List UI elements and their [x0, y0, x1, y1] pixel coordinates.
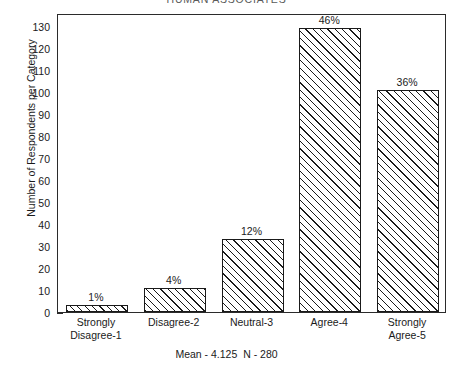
x-axis-tick-label: Neutral-3	[207, 316, 297, 329]
x-axis-tick-label-line: Agree-5	[362, 329, 452, 342]
y-axis-tick-label: 110	[0, 65, 50, 77]
bar-value-label: 12%	[212, 225, 292, 237]
x-axis-tick-label: Disagree-2	[129, 316, 219, 329]
x-axis-tick-label-line: Disagree-2	[129, 316, 219, 329]
y-axis-tick-label: 60	[0, 175, 50, 187]
bar[interactable]	[299, 28, 361, 312]
y-axis-tick-label: 70	[0, 153, 50, 165]
y-axis-tick-mark	[57, 313, 63, 314]
y-axis-tick-label: 130	[0, 21, 50, 33]
y-axis-tick-label: 50	[0, 197, 50, 209]
x-axis-tick-label: Agree-4	[284, 316, 374, 329]
y-axis-tick-label: 40	[0, 219, 50, 231]
y-axis-tick-label: 20	[0, 263, 50, 275]
x-axis-tick-label-line: Agree-4	[284, 316, 374, 329]
chart-caption: Mean - 4.125 N - 280	[0, 348, 453, 360]
plot-area	[57, 14, 446, 313]
bar[interactable]	[144, 288, 206, 312]
x-axis-tick-label-line: Strongly	[51, 316, 141, 329]
bar-value-label: 36%	[367, 76, 447, 88]
x-axis-tick-label-line: Neutral-3	[207, 316, 297, 329]
y-axis-tick-label: 10	[0, 285, 50, 297]
x-axis-tick-label: StronglyDisagree-1	[51, 316, 141, 341]
bar-value-label: 4%	[134, 274, 214, 286]
y-axis-tick-label: 120	[0, 43, 50, 55]
chart-title: HUMAN ASSOCIATES	[0, 0, 453, 5]
x-axis-tick-label-line: Disagree-1	[51, 329, 141, 342]
y-axis-tick-label: 90	[0, 109, 50, 121]
y-axis-tick-label: 100	[0, 87, 50, 99]
y-axis-tick-label: 80	[0, 131, 50, 143]
y-axis-tick-label: 0	[0, 307, 50, 319]
bar[interactable]	[377, 90, 439, 312]
bar[interactable]	[222, 239, 284, 312]
x-axis-tick-label: StronglyAgree-5	[362, 316, 452, 341]
y-axis-tick-label: 30	[0, 241, 50, 253]
bar-value-label: 1%	[56, 291, 136, 303]
x-axis-tick-label-line: Strongly	[362, 316, 452, 329]
bar[interactable]	[66, 305, 128, 312]
bar-value-label: 46%	[289, 14, 369, 26]
